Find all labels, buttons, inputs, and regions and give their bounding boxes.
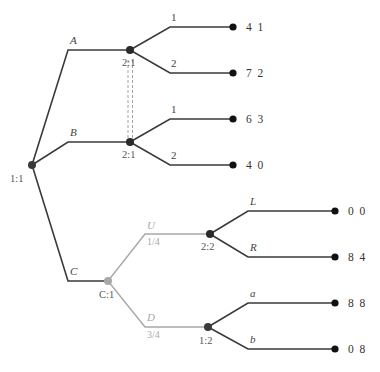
payoff-Db: 0 8 — [348, 343, 366, 355]
move-label-top-2: 2 — [171, 57, 177, 69]
edge-move-A — [32, 50, 130, 165]
leaf-B1 — [229, 115, 236, 122]
leaf-Db — [331, 345, 338, 352]
node-label-root: 1:1 — [10, 173, 23, 184]
payoff-Da: 8 8 — [348, 297, 366, 309]
move-label-b: b — [250, 333, 256, 345]
move-label-A: A — [69, 34, 77, 46]
node-root — [28, 161, 36, 169]
node-chance — [104, 277, 112, 285]
move-label-top-1: 1 — [171, 11, 177, 23]
edge-top-move-1 — [130, 27, 233, 50]
game-tree-diagram: 1:1 2:1 2:1 C:1 2:2 1:2 A B C 1 2 1 2 U … — [0, 0, 380, 372]
move-label-R: R — [249, 241, 257, 253]
move-label-L: L — [249, 195, 256, 207]
leaf-UR — [331, 253, 338, 260]
leaf-A1 — [229, 23, 236, 30]
node-label-chance: C:1 — [99, 289, 114, 300]
payoff-A1: 4 1 — [246, 21, 264, 33]
prob-label-D: 3/4 — [147, 329, 160, 340]
payoff-A2: 7 2 — [246, 67, 264, 79]
edge-move-R — [210, 234, 335, 257]
move-label-U: U — [147, 219, 156, 231]
move-label-D: D — [146, 311, 155, 323]
payoff-B1: 6 3 — [246, 113, 264, 125]
edge-move-a — [208, 303, 335, 327]
leaf-UL — [331, 207, 338, 214]
edge-bottom-move-1 — [130, 119, 233, 142]
move-label-bottom-2: 2 — [171, 149, 177, 161]
payoff-UR: 8 4 — [348, 251, 366, 263]
information-set-2-1 — [128, 60, 133, 138]
edge-top-move-2 — [130, 50, 233, 73]
node-p2-bottom — [126, 138, 134, 146]
node-p2-top — [126, 46, 134, 54]
leaf-B2 — [229, 161, 236, 168]
move-label-a: a — [250, 287, 256, 299]
payoff-UL: 0 0 — [348, 205, 366, 217]
node-label-p2-bottom: 2:1 — [122, 149, 135, 160]
edge-move-B — [32, 142, 130, 165]
node-label-p2-second: 2:2 — [201, 241, 214, 252]
node-p1-second — [204, 323, 212, 331]
move-label-C: C — [70, 265, 78, 277]
payoff-B2: 4 0 — [246, 159, 264, 171]
move-label-B: B — [70, 126, 77, 138]
edge-chance-D — [108, 281, 208, 327]
edge-bottom-move-2 — [130, 142, 233, 165]
node-label-p1-second: 1:2 — [199, 335, 212, 346]
edge-move-L — [210, 211, 335, 234]
prob-label-U: 1/4 — [147, 236, 160, 247]
move-label-bottom-1: 1 — [171, 103, 177, 115]
node-label-p2-top: 2:1 — [122, 57, 135, 68]
node-p2-second — [206, 230, 214, 238]
leaf-Da — [331, 299, 338, 306]
edge-move-C — [32, 165, 108, 281]
leaf-A2 — [229, 69, 236, 76]
edge-move-b — [208, 327, 335, 349]
